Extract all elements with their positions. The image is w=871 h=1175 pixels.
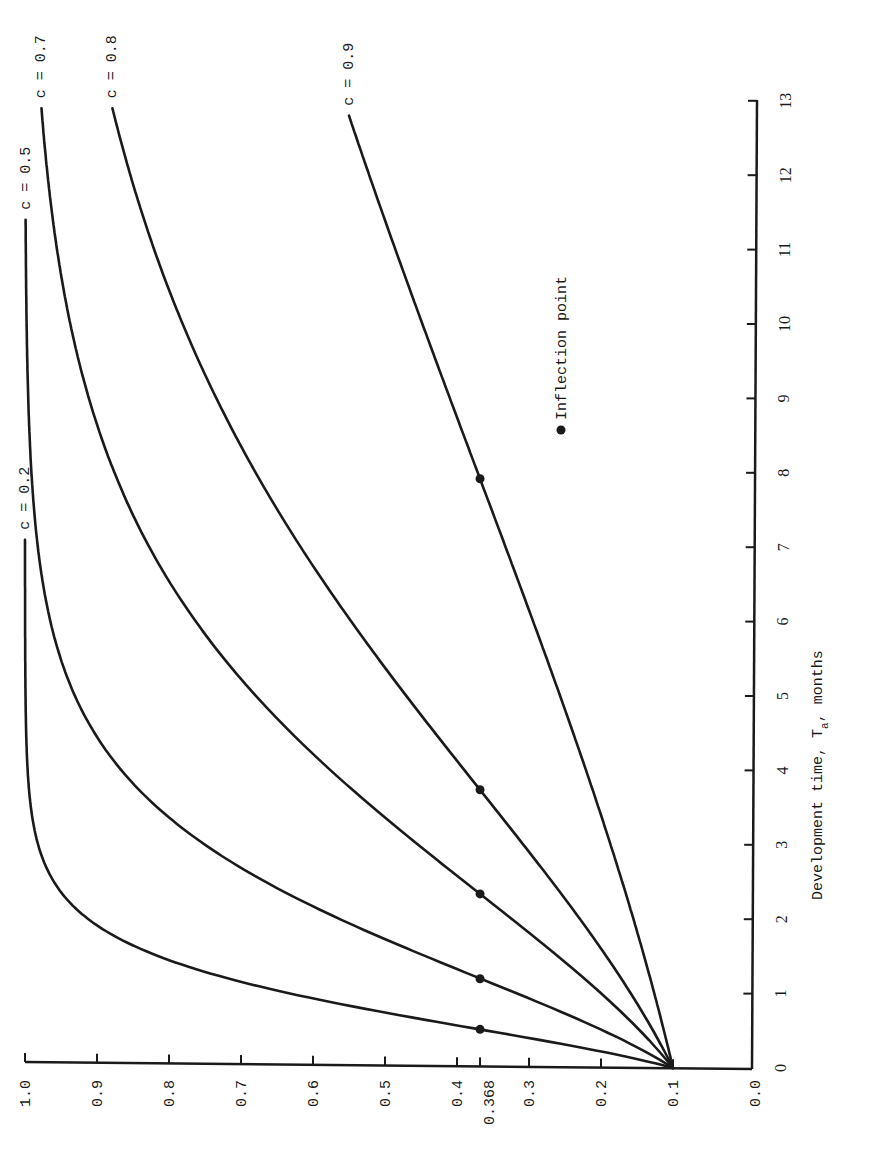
x-axis-title: Development time, Ta, months [810,650,831,900]
legend-label: Inflection point [554,276,571,420]
curves [25,108,673,1068]
probability-tick-label: 0.368 [482,1080,499,1125]
time-tick-label: 5 [774,692,791,700]
curve-c-0.7 [42,108,674,1068]
curve-c-0.9 [349,116,673,1068]
inflection-point-marker [476,889,485,898]
probability-tick-label: 0.5 [378,1080,395,1107]
curve-label: c = 0.5 [18,147,35,210]
time-tick-label: 7 [775,543,792,551]
x-axis-title-main: Development time, T [810,729,827,900]
inflection-markers [476,474,485,1034]
probability-tick-label: 1.0 [18,1080,35,1107]
time-axis-line [752,100,757,1069]
time-tick-label: 9 [775,394,792,402]
x-axis-title-tail: , months [810,650,827,722]
curve-label: c = 0.2 [17,467,34,530]
probability-tick-label: 0.1 [666,1080,683,1107]
probability-axis-line [25,1062,752,1069]
curve-label: c = 0.8 [104,35,121,98]
time-tick-label: 6 [774,618,791,626]
time-tick-label: 0 [772,1064,789,1072]
legend-marker-icon [557,426,566,435]
curve-c-0.8 [112,108,673,1068]
time-tick-label: 10 [776,316,793,332]
time-tick-label: 1 [772,990,789,998]
probability-tick-label: 0.2 [594,1080,611,1107]
time-tick-label: 12 [777,167,794,183]
time-tick-label: 11 [776,242,793,257]
probability-tick-label: 0.4 [450,1080,467,1107]
axes: 1.00.90.80.70.60.50.40.3680.30.20.10.001… [18,93,794,1125]
time-tick-label: 4 [774,766,791,774]
probability-tick-label: 0.3 [522,1080,539,1107]
curve-labels: c = 0.2c = 0.5c = 0.7c = 0.8c = 0.9 [17,35,358,530]
curve-label: c = 0.9 [341,43,358,106]
probability-tick-label: 0.8 [162,1080,179,1107]
time-tick-label: 13 [777,93,794,109]
time-tick-label: 8 [775,469,792,477]
gompertz-chart: 1.00.90.80.70.60.50.40.3680.30.20.10.001… [0,0,871,1175]
probability-tick-label: 0.9 [90,1080,107,1107]
inflection-point-marker [476,974,485,983]
time-tick-label: 3 [773,841,790,849]
inflection-point-marker [476,785,485,794]
probability-tick-label: 0.7 [234,1080,251,1107]
inflection-point-marker [476,1025,485,1034]
curve-label: c = 0.7 [33,35,50,98]
svg-text:Development time, Ta, months: Development time, Ta, months [810,650,831,900]
legend: Inflection point [554,276,571,435]
probability-tick-label: 0.6 [306,1080,323,1107]
inflection-point-marker [476,474,485,483]
probability-tick-label: 0.0 [748,1080,765,1107]
time-tick-label: 2 [773,915,790,923]
